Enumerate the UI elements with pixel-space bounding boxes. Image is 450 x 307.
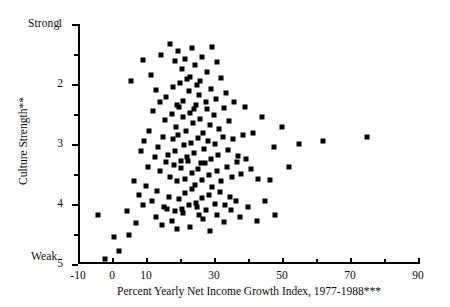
data-point <box>246 205 251 210</box>
data-point <box>168 175 173 180</box>
y-axis-major-tick: 5 <box>72 264 78 266</box>
y-axis-tick-label: 4 <box>57 198 63 210</box>
data-point <box>180 115 185 120</box>
x-axis-major-tick: 50 <box>282 258 284 264</box>
data-point <box>235 160 240 165</box>
data-point <box>165 206 170 211</box>
data-point <box>215 212 220 217</box>
data-point <box>176 197 181 202</box>
data-point <box>152 155 157 160</box>
data-point <box>188 140 193 145</box>
data-point <box>145 164 150 169</box>
x-axis-tick-label: 10 <box>140 270 152 282</box>
data-point <box>154 88 159 93</box>
data-point <box>183 191 188 196</box>
data-point <box>233 199 238 204</box>
data-point <box>189 46 194 51</box>
data-point <box>297 142 302 147</box>
data-point <box>127 233 132 238</box>
data-point <box>176 49 181 54</box>
data-point <box>244 157 249 162</box>
y-axis-major-tick: 2 <box>72 84 78 86</box>
data-point <box>169 112 174 117</box>
data-point <box>249 167 254 172</box>
data-point <box>167 194 172 199</box>
data-point <box>197 116 202 121</box>
data-point <box>161 134 166 139</box>
x-axis-major-tick: 10 <box>146 258 148 264</box>
x-axis-minor-tick <box>384 259 386 264</box>
data-point <box>171 163 176 168</box>
data-point <box>215 59 220 64</box>
data-point <box>171 85 176 90</box>
data-point <box>157 100 162 105</box>
data-point <box>251 131 256 136</box>
x-axis-minor-tick <box>248 259 250 264</box>
data-point <box>142 139 147 144</box>
data-point <box>200 196 205 201</box>
data-point <box>200 55 205 60</box>
data-point <box>181 98 186 103</box>
y-axis-major-tick: 4 <box>72 204 78 206</box>
data-point <box>203 208 208 213</box>
data-point <box>196 92 201 97</box>
y-axis-title: Culture Strength** <box>17 81 29 201</box>
y-axis-tick-label: 5 <box>57 258 63 270</box>
data-point <box>154 188 159 193</box>
plot-area: 12345 -1001030507090 <box>78 24 418 264</box>
data-point <box>158 169 163 174</box>
data-point <box>190 121 195 126</box>
data-point <box>170 137 175 142</box>
data-point <box>210 44 215 49</box>
data-point <box>178 158 183 163</box>
data-point <box>164 95 169 100</box>
data-point <box>181 211 186 216</box>
data-point <box>365 134 370 139</box>
data-point <box>103 257 108 262</box>
data-point <box>199 178 204 183</box>
data-point <box>190 187 195 192</box>
x-axis-minor-tick <box>180 259 182 264</box>
y-axis-minor-tick <box>74 174 78 176</box>
data-point <box>230 137 235 142</box>
data-point <box>242 104 247 109</box>
data-point <box>195 136 200 141</box>
y-axis-tick-label: 3 <box>57 138 63 150</box>
data-point <box>218 76 223 81</box>
data-point <box>222 220 227 225</box>
data-point <box>205 139 210 144</box>
data-point <box>222 203 227 208</box>
data-point <box>137 193 142 198</box>
data-point <box>209 157 214 162</box>
x-axis-tick-label: 30 <box>208 270 220 282</box>
data-point <box>179 67 184 72</box>
y-axis-bottom-endpoint-label: Weak <box>31 250 57 262</box>
data-point <box>229 175 234 180</box>
y-axis-minor-tick <box>74 54 78 56</box>
data-point <box>132 179 137 184</box>
data-point <box>187 110 192 115</box>
data-point <box>196 167 201 172</box>
data-point <box>141 203 146 208</box>
data-point <box>254 218 259 223</box>
data-point <box>225 148 230 153</box>
data-point <box>175 133 180 138</box>
data-point <box>186 158 191 163</box>
x-axis-tick-label: 90 <box>412 270 424 282</box>
data-point <box>189 170 194 175</box>
data-point <box>150 109 155 114</box>
data-point <box>172 59 177 64</box>
y-axis-tick-label: 1 <box>57 18 63 30</box>
data-point <box>202 146 207 151</box>
data-point <box>149 73 154 78</box>
data-point <box>133 221 138 226</box>
data-point <box>186 89 191 94</box>
x-axis-tick-label: 50 <box>276 270 288 282</box>
data-point <box>175 179 180 184</box>
data-point <box>155 145 160 150</box>
x-axis-major-tick: -10 <box>78 258 80 264</box>
data-point <box>320 139 325 144</box>
x-axis-tick-label: 0 <box>109 270 115 282</box>
data-point <box>209 185 214 190</box>
data-point <box>259 115 264 120</box>
